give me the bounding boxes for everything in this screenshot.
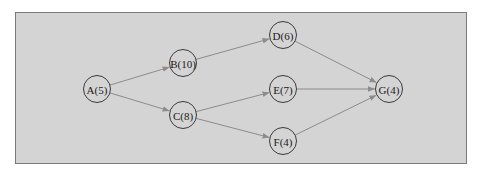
node-label: B(10) <box>170 58 196 71</box>
node-label: F(4) <box>274 136 293 149</box>
edge-a-to-b <box>110 67 170 85</box>
node-label: E(7) <box>273 84 293 97</box>
edge-b-to-d <box>196 39 270 60</box>
node-label: C(8) <box>173 110 194 123</box>
node-f: F(4) <box>270 128 297 155</box>
node-d: D(6) <box>270 22 297 49</box>
edges-layer <box>110 39 377 138</box>
node-e: E(7) <box>270 76 297 103</box>
edge-c-to-f <box>196 118 269 137</box>
edge-a-to-c <box>110 93 170 111</box>
node-a: A(5) <box>84 76 111 103</box>
node-label: A(5) <box>87 84 108 97</box>
dependency-graph: A(5)B(10)C(8)D(6)E(7)F(4)G(4) <box>0 0 479 173</box>
edge-d-to-g <box>295 41 377 83</box>
node-c: C(8) <box>170 102 197 129</box>
node-g: G(4) <box>376 76 403 103</box>
node-label: D(6) <box>273 30 294 43</box>
node-label: G(4) <box>379 84 400 97</box>
node-b: B(10) <box>170 50 197 77</box>
edge-f-to-g <box>295 95 376 135</box>
edge-c-to-e <box>196 93 269 112</box>
nodes-layer: A(5)B(10)C(8)D(6)E(7)F(4)G(4) <box>84 22 403 155</box>
